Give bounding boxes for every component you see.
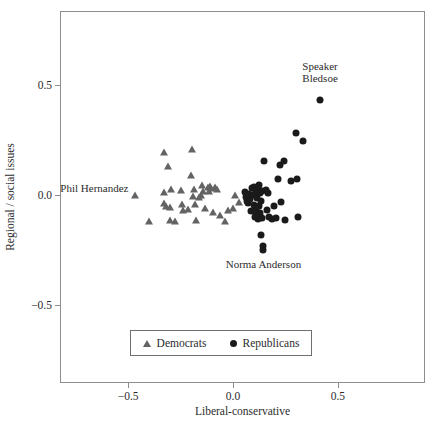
- x-axis-tick: [233, 382, 234, 388]
- annotation-line: Phil Hernandez: [60, 182, 128, 195]
- y-axis-title: Regional / social issues: [2, 11, 18, 383]
- data-point-democrats: [213, 185, 221, 192]
- data-point-republicans: [282, 216, 289, 223]
- y-axis-tick-label: 0.5: [38, 79, 52, 91]
- data-point-democrats: [131, 191, 139, 198]
- data-point-democrats: [160, 148, 168, 155]
- legend-box: Democrats Republicans: [130, 330, 312, 356]
- x-axis-tick-label: 0.5: [331, 390, 345, 402]
- data-point-republicans: [300, 137, 307, 144]
- data-point-democrats: [167, 186, 175, 193]
- annotation-norma-anderson: Norma Anderson: [226, 258, 301, 271]
- data-point-democrats: [145, 217, 153, 224]
- data-point-republicans: [260, 246, 267, 253]
- data-point-republicans: [263, 206, 270, 213]
- data-point-democrats: [235, 198, 243, 205]
- data-point-democrats: [166, 203, 174, 210]
- data-point-democrats: [231, 191, 239, 198]
- y-axis-tick: [55, 85, 61, 86]
- data-point-republicans: [275, 175, 282, 182]
- x-axis-tick: [128, 382, 129, 388]
- plot-area: [61, 12, 424, 382]
- data-point-republicans: [278, 198, 285, 205]
- scatter-plot-figure: 0.50.0−0.5−0.50.00.5 SpeakerBledsoePhil …: [0, 0, 436, 431]
- data-point-republicans: [270, 202, 277, 209]
- annotation-line: Bledsoe: [302, 72, 337, 85]
- data-point-democrats: [201, 204, 209, 211]
- y-axis-tick-label: −0.5: [31, 299, 52, 311]
- legend-label-republicans: Republicans: [243, 337, 300, 349]
- data-point-republicans: [261, 157, 268, 164]
- triangle-up-icon: [143, 340, 151, 347]
- data-point-democrats: [164, 163, 172, 170]
- data-point-republicans: [281, 157, 288, 164]
- annotation-line: Speaker: [302, 60, 337, 73]
- data-point-democrats: [191, 200, 199, 207]
- legend-entry-republicans: Republicans: [230, 337, 300, 349]
- y-axis-tick: [55, 195, 61, 196]
- data-point-democrats: [187, 171, 195, 178]
- data-point-republicans: [264, 189, 271, 196]
- x-axis-title: Liberal-conservative: [60, 405, 425, 417]
- data-point-democrats: [192, 216, 200, 223]
- data-point-republicans: [257, 197, 264, 204]
- data-point-republicans: [258, 231, 265, 238]
- x-axis-tick-label: −0.5: [118, 390, 139, 402]
- data-point-democrats: [171, 217, 179, 224]
- legend-entry-democrats: Democrats: [143, 337, 207, 349]
- data-point-republicans: [317, 96, 324, 103]
- data-point-republicans: [273, 214, 280, 221]
- data-point-democrats: [221, 217, 229, 224]
- annotation-phil-hernandez: Phil Hernandez: [60, 182, 128, 195]
- data-point-democrats: [229, 204, 237, 211]
- y-axis-title-text: Regional / social issues: [4, 143, 16, 251]
- circle-icon: [230, 340, 237, 347]
- y-axis-tick-label: 0.0: [38, 189, 52, 201]
- legend-label-democrats: Democrats: [157, 337, 207, 349]
- x-axis-tick: [338, 382, 339, 388]
- data-point-democrats: [177, 186, 185, 193]
- data-point-republicans: [295, 213, 302, 220]
- x-axis-tick-label: 0.0: [226, 390, 240, 402]
- annotation-line: Norma Anderson: [226, 258, 301, 271]
- plot-frame: 0.50.0−0.5−0.50.00.5 SpeakerBledsoePhil …: [60, 11, 425, 383]
- annotation-speaker-bledsoe: SpeakerBledsoe: [302, 60, 337, 85]
- data-point-republicans: [293, 175, 300, 182]
- data-point-republicans: [292, 129, 299, 136]
- y-axis-tick: [55, 305, 61, 306]
- data-point-democrats: [188, 145, 196, 152]
